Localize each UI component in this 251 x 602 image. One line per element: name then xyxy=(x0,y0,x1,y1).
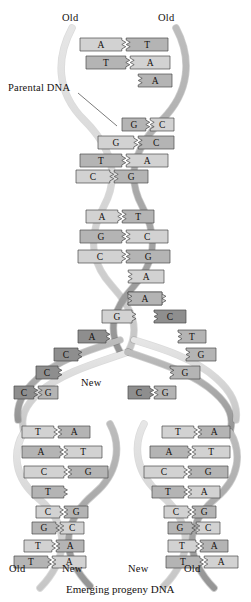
parental-seg1-pair-0-left-base: A xyxy=(80,38,126,51)
svg-text:T: T xyxy=(28,557,34,567)
parental-seg2-pair-3-right-base: G xyxy=(114,170,148,183)
svg-text:G: G xyxy=(176,523,183,533)
svg-text:A: A xyxy=(89,332,96,342)
parental-seg3-pair-3-right-base: A xyxy=(128,270,164,283)
svg-text:T: T xyxy=(80,447,86,457)
progeny-left-pair-4-right-base: G xyxy=(64,506,88,518)
fork-left-unpaired-2: A xyxy=(78,330,110,343)
svg-text:A: A xyxy=(144,156,151,166)
fork-left-unpaired-4: C xyxy=(36,366,62,379)
svg-text:T: T xyxy=(165,487,171,497)
figure-caption: Emerging progeny DNA xyxy=(66,583,175,595)
svg-text:C: C xyxy=(63,350,69,360)
svg-text:C: C xyxy=(167,312,173,322)
progeny-left-pair-0-right-base: A xyxy=(58,426,90,438)
parental-seg2-pair-2-left-base: T xyxy=(80,154,126,167)
fork-left-unpaired-1: G xyxy=(102,310,136,323)
parental-seg1-pair-1-left-base: T xyxy=(86,56,130,69)
svg-text:G: G xyxy=(40,523,47,533)
svg-text:G: G xyxy=(128,172,135,182)
parental-seg3-pair-2-right-base: G xyxy=(126,250,170,263)
progeny-right-pair-4-right-base: G xyxy=(192,506,216,518)
svg-text:C: C xyxy=(21,388,27,398)
label-new-bottom-left: New xyxy=(62,563,82,574)
fork-left-rejoin-left-base: C xyxy=(14,386,38,399)
progeny-right-pair-0-left-base: T xyxy=(162,426,197,438)
svg-text:A: A xyxy=(67,541,74,551)
svg-text:C: C xyxy=(97,252,103,262)
progeny-right-pair-2-left-base: C xyxy=(144,466,187,478)
label-old-top-left: Old xyxy=(62,12,78,23)
label-new-bottom-right: New xyxy=(128,563,148,574)
svg-text:C: C xyxy=(161,467,167,477)
parental-seg2-pair-0-right-base: C xyxy=(150,118,174,131)
svg-text:C: C xyxy=(205,523,211,533)
svg-text:G: G xyxy=(201,507,208,517)
progeny-right-pair-1-right-base: T xyxy=(192,446,230,458)
fork-right-rejoin-left-base: C xyxy=(128,386,154,399)
svg-text:A: A xyxy=(201,487,208,497)
fork-left-unpaired-3: C xyxy=(54,348,82,361)
label-old-top-right: Old xyxy=(158,12,174,23)
svg-text:T: T xyxy=(35,427,41,437)
svg-text:T: T xyxy=(175,427,181,437)
fork-left-rejoin-right-base: G xyxy=(38,386,58,399)
svg-text:A: A xyxy=(71,427,78,437)
parental-seg3-pair-2-left-base: C xyxy=(78,250,126,263)
svg-text:G: G xyxy=(85,467,92,477)
svg-text:C: C xyxy=(159,120,165,130)
label-old-bottom-right: Old xyxy=(184,563,200,574)
parental-seg1-pair-1-right-base: A xyxy=(130,56,170,69)
progeny-left-pair-2-left-base: C xyxy=(24,466,67,478)
svg-text:C: C xyxy=(136,388,142,398)
svg-text:T: T xyxy=(98,156,104,166)
label-old-bottom-left: Old xyxy=(9,563,25,574)
svg-text:G: G xyxy=(145,252,152,262)
svg-text:T: T xyxy=(103,58,109,68)
label-parental-dna: Parental DNA xyxy=(8,82,70,93)
svg-text:C: C xyxy=(173,507,179,517)
svg-text:C: C xyxy=(144,232,150,242)
svg-text:A: A xyxy=(37,447,44,457)
progeny-right-pair-0-right-base: A xyxy=(198,426,230,438)
parental-seg1-pair-2-right-base: A xyxy=(138,74,172,87)
svg-text:C: C xyxy=(45,507,51,517)
svg-text:C: C xyxy=(90,172,96,182)
progeny-left-pair-5-right-base: C xyxy=(60,522,84,534)
svg-text:T: T xyxy=(135,212,141,222)
svg-text:G: G xyxy=(182,368,189,378)
svg-text:C: C xyxy=(69,523,75,533)
progeny-left-pair-4-left-base: C xyxy=(36,506,63,518)
progeny-left-pair-6-left-base: T xyxy=(24,540,55,552)
svg-text:A: A xyxy=(211,541,218,551)
parental-seg2-pair-1-left-base: G xyxy=(98,136,138,149)
progeny-right-pair-6-right-base: A xyxy=(200,540,228,552)
progeny-right-pair-5-left-base: G xyxy=(168,522,195,534)
parental-seg3-pair-1-right-base: C xyxy=(126,230,168,243)
progeny-right-pair-7-right-base: A xyxy=(204,556,238,568)
svg-text:A: A xyxy=(165,447,172,457)
progeny-right-pair-5-right-base: C xyxy=(196,522,220,534)
svg-text:T: T xyxy=(45,487,51,497)
fork-right-unpaired-4: G xyxy=(170,366,200,379)
svg-text:C: C xyxy=(44,368,50,378)
progeny-left-pair-5-left-base: G xyxy=(32,522,59,534)
progeny-left-pair-3-left-base: T xyxy=(32,486,67,498)
progeny-right-pair-1-left-base: A xyxy=(150,446,191,458)
progeny-left-pair-6-right-base: A xyxy=(56,540,84,552)
progeny-left-pair-1-left-base: A xyxy=(22,446,63,458)
svg-text:G: G xyxy=(130,120,137,130)
parental-seg1-pair-0-right-base: T xyxy=(126,38,168,51)
svg-text:G: G xyxy=(114,312,121,322)
svg-text:T: T xyxy=(189,332,195,342)
svg-text:T: T xyxy=(144,40,150,50)
parental-seg2-pair-0-left-base: G xyxy=(122,118,150,131)
svg-text:A: A xyxy=(98,212,105,222)
svg-text:A: A xyxy=(97,40,104,50)
svg-text:A: A xyxy=(218,557,225,567)
svg-text:A: A xyxy=(142,294,149,304)
label-new-fork: New xyxy=(81,377,101,388)
progeny-right-pair-6-left-base: T xyxy=(168,540,199,552)
svg-text:A: A xyxy=(147,58,154,68)
svg-text:T: T xyxy=(35,541,41,551)
